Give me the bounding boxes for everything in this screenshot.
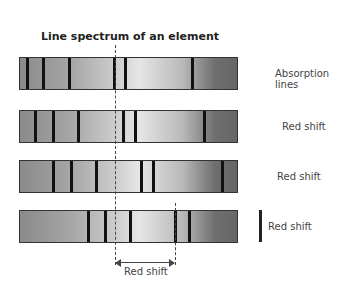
absorption-line xyxy=(77,111,80,142)
band-label: Red shift xyxy=(282,121,326,132)
absorption-line xyxy=(95,161,98,192)
absorption-line xyxy=(124,58,127,89)
absorption-line xyxy=(140,161,143,192)
band-label: Red shift xyxy=(268,221,312,232)
absorption-line xyxy=(203,111,206,142)
absorption-line xyxy=(26,58,29,89)
absorption-line xyxy=(191,58,194,89)
band-label: Absorption lines xyxy=(275,68,337,90)
absorption-line xyxy=(52,111,55,142)
absorption-line xyxy=(52,161,55,192)
absorption-line xyxy=(134,111,137,142)
absorption-line xyxy=(34,111,37,142)
red-shift-arrow xyxy=(116,262,174,263)
absorption-line xyxy=(70,161,73,192)
spectrum-band xyxy=(19,160,238,193)
spectrum-band xyxy=(19,210,238,243)
absorption-line xyxy=(122,111,125,142)
band-label: Red shift xyxy=(277,171,321,182)
absorption-line xyxy=(87,211,90,242)
absorption-line xyxy=(221,161,224,192)
absorption-line xyxy=(68,58,71,89)
absorption-line xyxy=(188,211,191,242)
absorption-line xyxy=(129,211,132,242)
absorption-line xyxy=(104,211,107,242)
shifted-dashed-line xyxy=(175,203,176,265)
reference-dashed-line xyxy=(115,45,116,265)
absorption-line xyxy=(42,58,45,89)
absorption-line xyxy=(152,161,155,192)
red-shift-marker-bar xyxy=(259,210,262,242)
diagram-title: Line spectrum of an element xyxy=(0,30,260,43)
spectrum-band xyxy=(19,57,238,90)
spectrum-band xyxy=(19,110,238,143)
red-shift-arrow-label: Red shift xyxy=(124,266,168,277)
